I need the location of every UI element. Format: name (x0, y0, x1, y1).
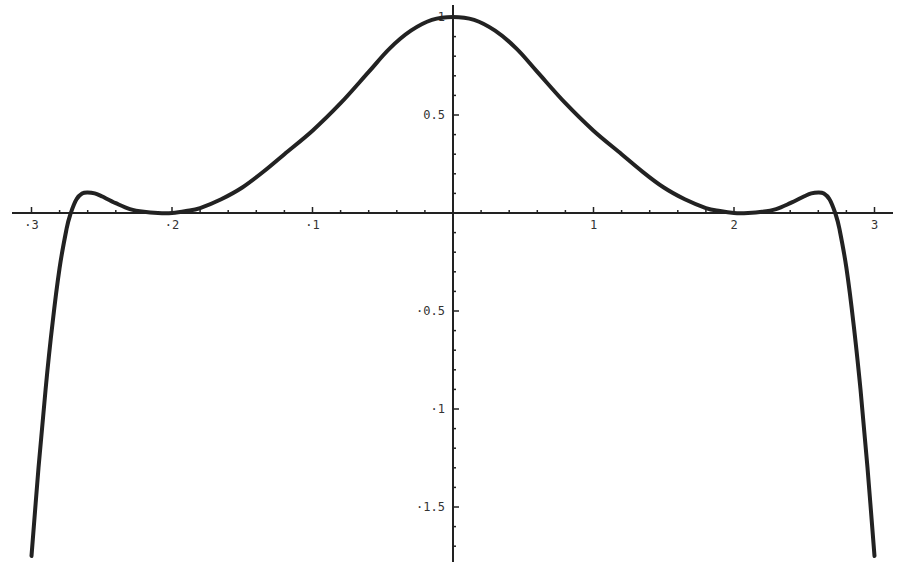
axes (12, 5, 893, 562)
y-tick-label: 0.5 (423, 108, 445, 122)
x-tick-label: 2 (730, 218, 737, 232)
y-tick-label: ·0.5 (416, 304, 445, 318)
x-tick-label: ·1 (305, 218, 319, 232)
tick-labels: ·3·2·112310.5·0.5·1·1.5 (24, 10, 878, 514)
x-tick-label: ·3 (24, 218, 38, 232)
y-tick-label: ·1 (431, 402, 445, 416)
function-plot: ·3·2·112310.5·0.5·1·1.5 (0, 0, 905, 566)
x-tick-label: 3 (871, 218, 878, 232)
x-tick-label: 1 (590, 218, 597, 232)
x-tick-label: ·2 (165, 218, 179, 232)
y-tick-label: ·1.5 (416, 500, 445, 514)
